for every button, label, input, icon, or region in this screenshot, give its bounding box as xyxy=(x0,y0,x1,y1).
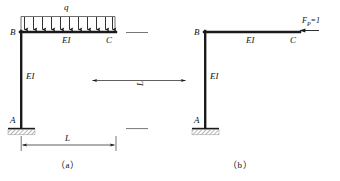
distributed-load-box xyxy=(21,17,115,32)
label-joint-a-a: A xyxy=(10,116,16,125)
fixed-support-a xyxy=(8,129,35,135)
fixed-support-b xyxy=(192,129,219,135)
caption-panel-a: （a） xyxy=(56,161,80,170)
label-column-stiffness-b: EI xyxy=(210,72,219,81)
distributed-load-arrows xyxy=(25,17,113,30)
label-joint-b-a: B xyxy=(10,28,16,37)
label-q-a: q xyxy=(64,3,69,12)
force-symbol-value: =1 xyxy=(311,16,320,25)
figure-svg xyxy=(0,0,340,181)
label-unit-force-b: FP=1 xyxy=(302,17,320,27)
dimension-label-vertical-a: L xyxy=(136,81,145,86)
label-beam-stiffness-a: EI xyxy=(62,36,71,45)
label-beam-stiffness-b: EI xyxy=(246,36,255,45)
label-column-stiffness-a: EI xyxy=(26,72,35,81)
label-joint-b-b: B xyxy=(194,28,200,37)
caption-panel-b: （b） xyxy=(228,161,252,170)
label-joint-a-b: A xyxy=(194,116,200,125)
panel-a xyxy=(8,17,186,152)
label-joint-c-a: C xyxy=(106,36,112,45)
label-joint-c-b: C xyxy=(290,36,296,45)
panel-b xyxy=(192,31,319,135)
dimension-label-horizontal-a: L xyxy=(65,134,70,143)
engineering-figure: q B C EI EI A L L （a） B C EI EI A FP=1 （… xyxy=(0,0,340,181)
